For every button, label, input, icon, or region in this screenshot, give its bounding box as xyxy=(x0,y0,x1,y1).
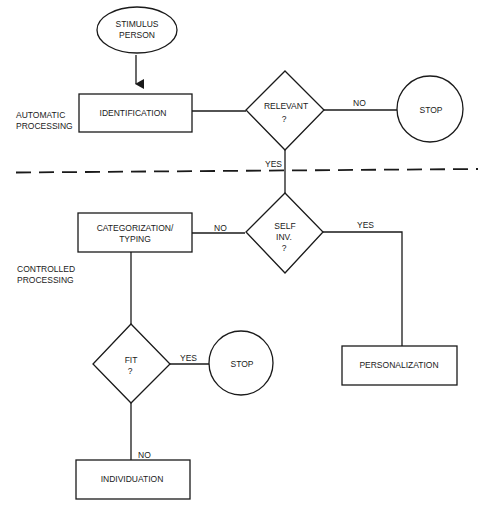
node-label: IDENTIFICATION xyxy=(100,108,167,118)
edge-label-self-inv-no: NO xyxy=(214,223,227,233)
edge-label-fit-yes: YES xyxy=(180,353,197,363)
node-label: PERSONALIZATION xyxy=(359,360,438,370)
node-label-line1: FIT xyxy=(125,355,138,365)
node-stimulus-person: STIMULUS PERSON xyxy=(97,7,177,53)
node-label-line2: INV. xyxy=(276,232,292,242)
node-label-line2: ? xyxy=(282,114,287,124)
node-label-line2: PERSON xyxy=(119,30,155,40)
edge-label-relevant-yes: YES xyxy=(265,159,282,169)
node-label-line1: STIMULUS xyxy=(116,19,159,29)
node-identification: IDENTIFICATION xyxy=(79,94,192,132)
node-label: STOP xyxy=(420,105,443,115)
edge-self-inv-yes xyxy=(323,232,402,346)
node-relevant-decision: RELEVANT ? xyxy=(246,71,324,150)
node-fit-decision: FIT ? xyxy=(93,324,170,403)
edge-label-self-inv-yes: YES xyxy=(357,220,374,230)
node-label: STOP xyxy=(231,359,254,369)
flowchart-canvas: AUTOMATIC PROCESSING CONTROLLED PROCESSI… xyxy=(0,0,486,511)
processing-divider-line xyxy=(16,169,478,173)
region-label-automatic-line2: PROCESSING xyxy=(16,121,73,131)
node-stop-bottom: STOP xyxy=(209,331,273,395)
region-label-controlled-line1: CONTROLLED xyxy=(17,264,75,274)
node-label: INDIVIDUATION xyxy=(101,474,164,484)
node-individuation: INDIVIDUATION xyxy=(76,460,190,499)
node-label-line3: ? xyxy=(282,243,287,253)
edge-label-fit-no: NO xyxy=(138,450,151,460)
node-label-line1: CATEGORIZATION/ xyxy=(97,223,174,233)
node-label-line1: RELEVANT xyxy=(264,101,308,111)
node-categorization-typing: CATEGORIZATION/ TYPING xyxy=(78,213,192,252)
node-label-line2: ? xyxy=(128,366,133,376)
node-label-line1: SELF xyxy=(274,221,295,231)
node-personalization: PERSONALIZATION xyxy=(342,346,457,385)
region-label-automatic-line1: AUTOMATIC xyxy=(16,110,65,120)
edge-label-relevant-no: NO xyxy=(353,98,366,108)
node-self-involvement-decision: SELF INV. ? xyxy=(246,193,323,273)
region-label-controlled-line2: PROCESSING xyxy=(17,275,74,285)
node-stop-top: STOP xyxy=(397,76,463,142)
node-label-line2: TYPING xyxy=(119,234,151,244)
